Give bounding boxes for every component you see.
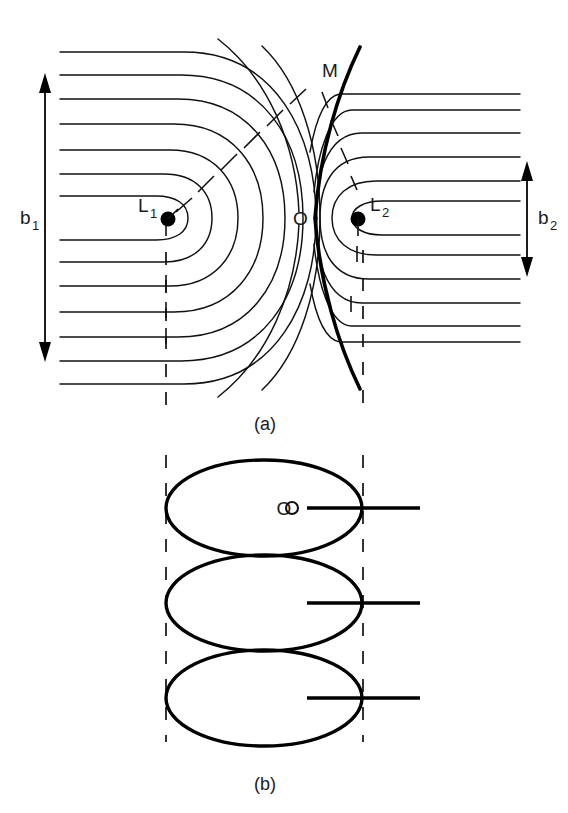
figure-container: b 1 b 2 L 1 L 2 O M (a) O (b) xyxy=(0,0,568,813)
o-point-label: O xyxy=(293,208,308,229)
m-point-label: M xyxy=(322,60,338,81)
panel-a-caption: (a) xyxy=(254,414,276,434)
l1-label-subscript: 1 xyxy=(150,206,157,221)
l2-label-subscript: 2 xyxy=(382,205,389,220)
panel-b-caption: (b) xyxy=(254,774,276,794)
b2-label: b xyxy=(538,207,549,228)
b1-label: b xyxy=(20,207,31,228)
binary-star-equipotential-figure: b 1 b 2 L 1 L 2 O M (a) O (b) xyxy=(0,0,568,813)
panel-b-origin-label: O xyxy=(277,498,292,519)
b1-label-subscript: 1 xyxy=(32,218,39,233)
b2-label-subscript: 2 xyxy=(550,218,557,233)
l2-label: L xyxy=(370,194,381,215)
figure-background xyxy=(0,0,568,813)
l1-label: L xyxy=(138,195,149,216)
